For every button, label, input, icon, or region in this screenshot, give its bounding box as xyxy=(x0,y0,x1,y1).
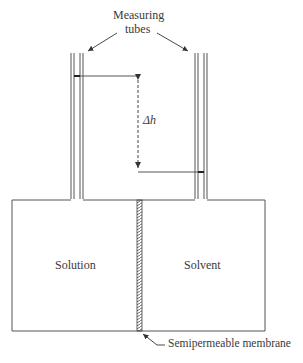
measuring-tubes-label-line2: tubes xyxy=(125,22,150,37)
solution-label: Solution xyxy=(55,258,96,273)
membrane-pointer-arrow xyxy=(143,334,165,345)
left-tube-pointer-arrow xyxy=(88,33,117,51)
measuring-tubes-label-line1: Measuring xyxy=(113,8,164,23)
right-measuring-tube xyxy=(195,53,207,199)
delta-h-label: Δh xyxy=(143,113,156,128)
osmosis-diagram xyxy=(0,0,303,363)
semipermeable-membrane-label: Semipermeable membrane xyxy=(168,337,291,349)
semipermeable-membrane xyxy=(137,200,142,331)
left-level-mark xyxy=(74,75,80,77)
solvent-label: Solvent xyxy=(184,258,221,273)
right-tube-pointer-arrow xyxy=(157,33,188,51)
left-measuring-tube xyxy=(71,53,83,199)
right-level-mark xyxy=(198,171,204,173)
